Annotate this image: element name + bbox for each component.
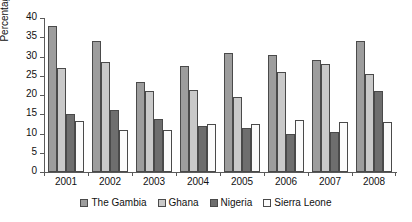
bar [383,122,392,172]
x-tick-label: 2001 [44,176,88,190]
bar [321,64,330,172]
bar [251,124,260,172]
bar [339,122,348,172]
x-tick-label: 2005 [220,176,264,190]
y-tick-label: 30 [26,50,37,61]
x-tick-label: 2004 [176,176,220,190]
bar [365,74,374,172]
bar [295,120,304,172]
bar [154,119,163,172]
y-tick-label: 5 [31,146,37,157]
bar [136,82,145,172]
x-tick-label: 2008 [352,176,396,190]
bar-group [88,18,132,172]
bar [119,130,128,172]
bar [110,110,119,172]
x-axis-labels: 20012002200320042005200620072008 [44,176,396,190]
x-tick-label: 2003 [132,176,176,190]
legend-swatch-icon [158,199,166,207]
bar [374,91,383,172]
bar [312,60,321,172]
bar-group [220,18,264,172]
bar [101,62,110,172]
bar-groups [44,18,396,172]
plot-area: 0510152025303540 [44,18,396,172]
bar [189,90,198,172]
y-tick-label: 15 [26,107,37,118]
bar [224,53,233,172]
legend-label: Sierra Leone [274,197,331,208]
bar-chart: Percentage 0510152025303540 200120022003… [0,0,412,222]
bar [66,114,75,172]
legend-item[interactable]: Sierra Leone [263,197,331,208]
y-tick-label: 35 [26,30,37,41]
bar-group [132,18,176,172]
bar [330,132,339,172]
bar [145,91,154,172]
bar [242,128,251,172]
bar [198,126,207,172]
bar-group [264,18,308,172]
y-tick-label: 40 [26,11,37,22]
bar [57,68,66,172]
legend-label: The Gambia [91,197,146,208]
x-tick-label: 2007 [308,176,352,190]
x-tick-label: 2006 [264,176,308,190]
bar [277,72,286,172]
legend-item[interactable]: The Gambia [80,197,146,208]
legend-item[interactable]: Nigeria [210,197,253,208]
legend-swatch-icon [80,199,88,207]
y-tick-label: 0 [31,165,37,176]
x-tick-label: 2002 [88,176,132,190]
bar [163,130,172,172]
legend-item[interactable]: Ghana [158,197,199,208]
bar [207,124,216,172]
bar [286,134,295,173]
bar [268,55,277,172]
y-axis-title: Percentage [0,0,10,56]
bar-group [44,18,88,172]
y-tick-label: 10 [26,127,37,138]
legend-label: Nigeria [221,197,253,208]
bar [92,41,101,172]
chart-legend: The GambiaGhanaNigeriaSierra Leone [0,197,412,208]
y-tick-label: 25 [26,69,37,80]
bar-group [308,18,352,172]
legend-swatch-icon [210,199,218,207]
legend-label: Ghana [169,197,199,208]
y-tick-label: 20 [26,88,37,99]
bar-group [176,18,220,172]
bar [233,97,242,172]
bar-group [352,18,396,172]
bar [75,121,84,172]
bar [48,26,57,172]
bar [180,66,189,172]
bar [356,41,365,172]
legend-swatch-icon [263,199,271,207]
